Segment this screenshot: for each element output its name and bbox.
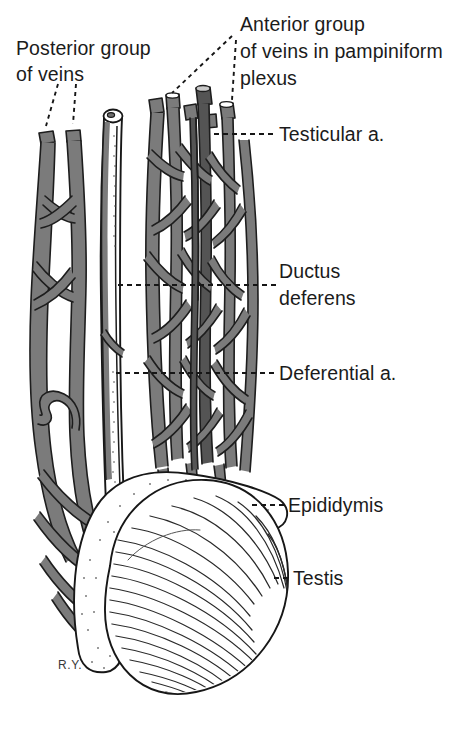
artist-signature: R.Y. — [58, 658, 82, 672]
label-deferential-artery: Deferential a. — [279, 362, 396, 384]
vein-cut-end — [166, 93, 180, 109]
label-ductus-deferens-line1: Ductus — [279, 260, 340, 282]
anatomical-figure: Posterior group of veins Anterior group … — [0, 0, 476, 729]
vein-cut-end — [149, 98, 164, 114]
label-testicular-artery: Testicular a. — [279, 123, 384, 145]
vein-cut-end — [196, 86, 212, 106]
testicular-artery-cut-end — [220, 102, 235, 119]
label-testis: Testis — [293, 567, 344, 589]
label-anterior-group-line3: plexus — [240, 67, 297, 89]
label-posterior-group-line1: Posterior group — [16, 37, 151, 59]
figure-canvas: Posterior group of veins Anterior group … — [0, 0, 476, 729]
label-ductus-deferens-line2: deferens — [279, 287, 356, 309]
deferential-artery — [190, 118, 198, 470]
leader-posterior-b — [73, 84, 76, 124]
leader-anterior-b — [232, 40, 236, 100]
ductus-lumen — [107, 113, 114, 118]
testis — [105, 480, 290, 708]
vein-cut-end — [66, 130, 81, 142]
label-epididymis: Epididymis — [288, 494, 383, 516]
label-posterior-group-line2: of veins — [16, 63, 84, 85]
label-anterior-group-line2: of veins in pampiniform — [240, 40, 443, 62]
label-anterior-group-line1: Anterior group — [240, 13, 365, 35]
leader-posterior-a — [46, 84, 58, 126]
anterior-group-of-veins — [144, 86, 258, 501]
leader-anterior-a — [172, 36, 232, 93]
